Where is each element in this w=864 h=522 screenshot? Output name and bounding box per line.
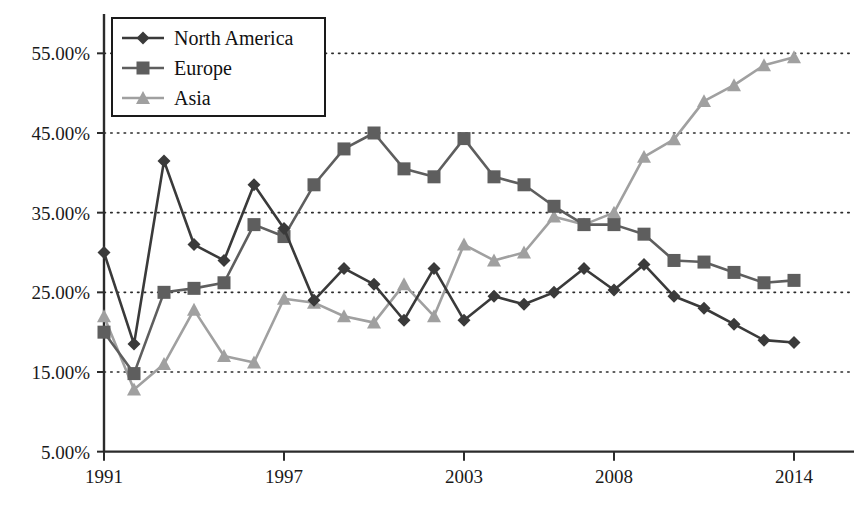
- data-point-marker: [368, 127, 381, 140]
- data-point-marker: [668, 254, 681, 267]
- data-point-marker: [218, 254, 231, 267]
- data-point-marker: [788, 336, 801, 349]
- series-north-america: [98, 154, 801, 350]
- data-point-marker: [97, 309, 111, 322]
- data-point-marker: [728, 318, 741, 331]
- x-tick-label: 2014: [775, 466, 814, 487]
- data-point-marker: [428, 262, 441, 275]
- y-tick-label: 25.00%: [31, 282, 90, 303]
- chart-container: 5.00%15.00%25.00%35.00%45.00%55.00% 1991…: [0, 0, 864, 522]
- data-point-marker: [548, 200, 561, 213]
- data-point-marker: [398, 162, 411, 175]
- data-point-marker: [698, 302, 711, 315]
- data-point-marker: [137, 62, 150, 75]
- data-point-marker: [217, 349, 231, 362]
- x-tick-label: 1997: [265, 466, 303, 487]
- y-tick-label: 55.00%: [31, 43, 90, 64]
- data-point-marker: [758, 334, 771, 347]
- data-point-marker: [308, 178, 321, 191]
- data-point-marker: [458, 132, 471, 145]
- series-line: [104, 133, 794, 374]
- data-point-marker: [638, 228, 651, 241]
- data-point-marker: [698, 256, 711, 269]
- data-point-marker: [697, 94, 711, 107]
- y-tick-label: 15.00%: [31, 362, 90, 383]
- data-point-marker: [248, 218, 261, 231]
- data-point-marker: [608, 218, 621, 231]
- data-point-marker: [338, 142, 351, 155]
- series-line: [104, 161, 794, 344]
- data-point-marker: [428, 170, 441, 183]
- data-point-marker: [337, 309, 351, 322]
- data-point-marker: [187, 303, 201, 316]
- y-axis-tick-labels: 5.00%15.00%25.00%35.00%45.00%55.00%: [31, 43, 90, 462]
- y-tick-label: 45.00%: [31, 123, 90, 144]
- y-tick-label: 5.00%: [41, 442, 90, 463]
- data-point-marker: [158, 286, 171, 299]
- data-point-marker: [157, 357, 171, 370]
- x-tick-label: 1991: [85, 466, 123, 487]
- data-point-marker: [218, 276, 231, 289]
- data-point-marker: [128, 338, 141, 351]
- data-point-marker: [457, 238, 471, 251]
- data-point-marker: [607, 206, 621, 219]
- data-point-marker: [788, 274, 801, 287]
- data-point-marker: [128, 367, 141, 380]
- data-point-marker: [518, 178, 531, 191]
- line-chart: 5.00%15.00%25.00%35.00%45.00%55.00% 1991…: [0, 0, 864, 522]
- x-tick-label: 2008: [595, 466, 633, 487]
- data-point-marker: [158, 154, 171, 167]
- data-point-marker: [98, 246, 111, 259]
- data-point-marker: [188, 238, 201, 251]
- data-point-marker: [488, 170, 501, 183]
- data-point-marker: [578, 218, 591, 231]
- x-tick-label: 2003: [445, 466, 483, 487]
- legend-item-label: North America: [174, 27, 294, 49]
- data-point-marker: [787, 50, 801, 63]
- data-point-marker: [397, 277, 411, 290]
- x-axis-tick-labels: 19911997200320082014: [85, 466, 814, 487]
- legend-item-label: Asia: [174, 87, 211, 109]
- data-point-marker: [637, 150, 651, 163]
- data-point-marker: [518, 298, 531, 311]
- y-tick-label: 35.00%: [31, 203, 90, 224]
- data-point-marker: [188, 282, 201, 295]
- chart-legend[interactable]: North AmericaEuropeAsia: [112, 18, 325, 116]
- legend-item-label: Europe: [174, 57, 232, 80]
- data-point-marker: [728, 266, 741, 279]
- series-europe: [98, 127, 801, 381]
- data-point-marker: [758, 276, 771, 289]
- data-point-marker: [727, 78, 741, 91]
- data-point-marker: [98, 326, 111, 339]
